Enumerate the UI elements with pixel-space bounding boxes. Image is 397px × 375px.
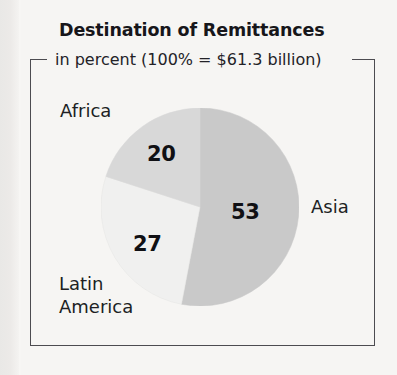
- pie-label-latin-america: Latin America: [59, 272, 133, 318]
- chart-title: Destination of Remittances: [59, 20, 324, 40]
- chart-subtitle: in percent (100% = $61.3 billion): [50, 50, 327, 69]
- pie-label-africa: Africa: [60, 99, 111, 122]
- pie-label-asia: Asia: [311, 195, 349, 218]
- pie-value-africa: 20: [147, 142, 176, 166]
- pie-label-latin-america-line2: America: [59, 295, 133, 318]
- chart-figure: Destination of Remittances in percent (1…: [0, 0, 397, 375]
- pie-label-latin-america-line1: Latin: [59, 272, 133, 295]
- pie-value-latin-america: 27: [133, 232, 162, 256]
- pie-value-asia: 53: [231, 200, 260, 224]
